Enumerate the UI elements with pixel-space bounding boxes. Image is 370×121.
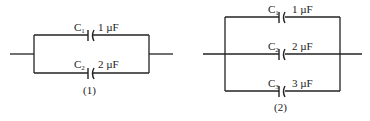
capacitor-c1	[88, 30, 94, 41]
circuit-2: C1 1 µF C2 2 µF C3 3 µF (2)	[203, 3, 362, 114]
c3-label: C3	[268, 77, 279, 91]
c2-value: 2 µF	[98, 58, 119, 70]
caption-2: (2)	[274, 101, 287, 114]
circuit-diagrams: C1 1 µF C2 2 µF (1) C1 1	[0, 0, 370, 121]
c1-value: 1 µF	[98, 21, 119, 33]
capacitor-c2	[279, 49, 285, 60]
c2-value: 2 µF	[292, 40, 313, 52]
c1-value: 1 µF	[292, 3, 313, 15]
c1-label: C1	[74, 21, 85, 35]
c3-value: 3 µF	[292, 77, 313, 89]
c1-label: C1	[268, 3, 279, 17]
circuit-1: C1 1 µF C2 2 µF (1)	[10, 21, 173, 97]
c2-label: C2	[268, 40, 279, 54]
caption-1: (1)	[83, 84, 96, 97]
c2-label: C2	[74, 58, 85, 72]
capacitor-c2	[88, 68, 94, 79]
capacitor-c3	[279, 86, 285, 97]
capacitor-c1	[279, 12, 285, 23]
